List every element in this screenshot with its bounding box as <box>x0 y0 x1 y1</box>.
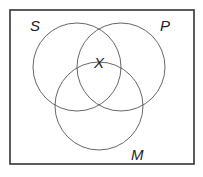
label-x: X <box>93 54 105 71</box>
venn-diagram: S P X M <box>0 0 203 177</box>
label-s: S <box>30 17 40 34</box>
label-m: M <box>131 146 144 163</box>
label-p: P <box>160 17 170 34</box>
